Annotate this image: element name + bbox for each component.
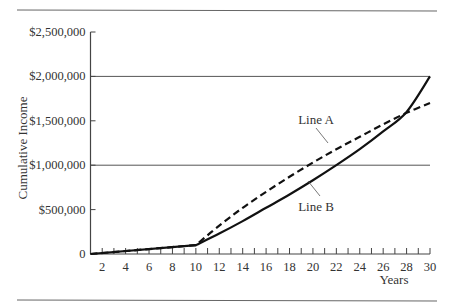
line-a-path bbox=[91, 103, 431, 254]
x-tick-label: 24 bbox=[354, 260, 367, 274]
y-tick-label: $500,000 bbox=[39, 203, 86, 217]
top-rule bbox=[17, 10, 437, 11]
x-tick-label: 14 bbox=[236, 260, 249, 274]
x-tick-label: 18 bbox=[283, 260, 296, 274]
gridlines bbox=[91, 76, 431, 165]
y-tick-label: $1,500,000 bbox=[29, 114, 85, 128]
bottom-rule bbox=[17, 300, 437, 301]
x-tick-label: 4 bbox=[122, 260, 129, 274]
y-tick-label: $2,500,000 bbox=[29, 25, 85, 39]
line-annotations: Line ALine B bbox=[298, 112, 334, 214]
x-tick-label: 20 bbox=[307, 260, 320, 274]
line-a-leader bbox=[316, 128, 328, 143]
x-tick-label: 8 bbox=[169, 260, 175, 274]
line-b-leader bbox=[308, 181, 320, 196]
y-axis-title: Cumulative Income bbox=[15, 96, 30, 199]
x-tick-label: 22 bbox=[330, 260, 343, 274]
y-tick-label: $1,000,000 bbox=[29, 158, 85, 172]
line-b-label: Line B bbox=[298, 199, 334, 214]
cumulative-income-chart: 0$500,000$1,000,000$1,500,000$2,000,000$… bbox=[0, 0, 453, 308]
x-tick-label: 12 bbox=[213, 260, 226, 274]
x-tick-label: 30 bbox=[424, 260, 437, 274]
x-tick-label: 2 bbox=[99, 260, 105, 274]
x-axis-title: Years bbox=[379, 272, 408, 287]
x-axis-ticks: 24681012141618202224262830 bbox=[99, 248, 436, 274]
line-a-label: Line A bbox=[298, 112, 334, 127]
x-tick-label: 6 bbox=[146, 260, 152, 274]
x-tick-label: 10 bbox=[190, 260, 203, 274]
y-tick-label: $2,000,000 bbox=[29, 69, 85, 83]
x-tick-label: 16 bbox=[260, 260, 273, 274]
axes bbox=[91, 32, 431, 254]
y-tick-label: 0 bbox=[79, 247, 85, 261]
y-axis-ticks: 0$500,000$1,000,000$1,500,000$2,000,000$… bbox=[29, 25, 95, 261]
